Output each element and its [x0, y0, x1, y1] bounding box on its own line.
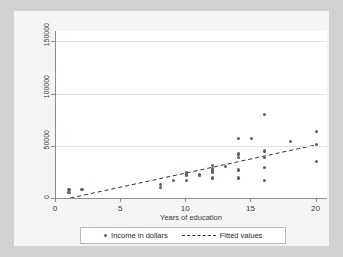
data-point — [198, 173, 201, 176]
gridline — [56, 94, 327, 95]
x-tick-label: 0 — [53, 204, 57, 213]
x-tick-label: 20 — [311, 204, 320, 213]
chart-figure: 05101520 050000100000150000 Years of edu… — [0, 0, 343, 257]
gridline — [56, 146, 327, 147]
x-axis-title: Years of education — [55, 213, 327, 222]
data-point — [237, 156, 240, 159]
chart-legend: Income in dollars Fitted values — [80, 227, 286, 244]
y-tick-mark — [51, 94, 55, 95]
legend-entry-income: Income in dollars — [104, 231, 168, 240]
x-tick-label: 15 — [246, 204, 255, 213]
y-tick-mark — [51, 146, 55, 147]
fitted-line — [56, 31, 327, 198]
x-tick-mark — [185, 198, 186, 202]
data-point — [263, 179, 266, 182]
data-point — [237, 168, 240, 171]
data-point — [211, 170, 214, 173]
y-tick-mark — [51, 41, 55, 42]
x-tick-mark — [55, 198, 56, 202]
y-tick-label: 50000 — [43, 130, 50, 149]
dot-marker-icon — [104, 234, 107, 237]
legend-label-fitted: Fitted values — [220, 231, 263, 240]
gridline — [56, 41, 327, 42]
x-tick-mark — [250, 198, 251, 202]
graph-region: 05101520 050000100000150000 Years of edu… — [14, 11, 329, 246]
y-tick-label: 100000 — [43, 75, 50, 98]
dashed-line-marker-icon — [182, 235, 216, 236]
x-tick-label: 10 — [181, 204, 190, 213]
data-point — [237, 176, 240, 179]
x-tick-mark — [120, 198, 121, 202]
data-point — [172, 179, 175, 182]
plot-area — [55, 31, 327, 198]
legend-entry-fitted: Fitted values — [182, 231, 263, 240]
y-tick-mark — [51, 198, 55, 199]
data-point — [263, 156, 266, 159]
x-tick-mark — [316, 198, 317, 202]
x-tick-label: 5 — [118, 204, 122, 213]
data-point — [185, 173, 188, 176]
legend-label-income: Income in dollars — [111, 231, 168, 240]
data-point — [263, 149, 266, 152]
y-tick-label: 150000 — [43, 23, 50, 46]
data-point — [211, 176, 214, 179]
data-point — [185, 179, 188, 182]
y-tick-label: 0 — [43, 195, 50, 199]
